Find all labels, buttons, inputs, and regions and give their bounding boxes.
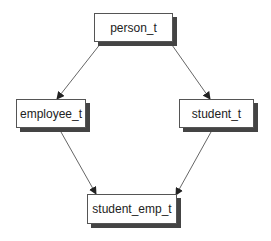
node-label: student_emp_t [92, 202, 171, 216]
node-student-emp-t: student_emp_t [87, 194, 177, 224]
edge-person-to-employee [57, 43, 101, 99]
edge-employee-to-student-emp [61, 132, 96, 194]
node-student-t: student_t [179, 99, 254, 128]
node-employee-t: employee_t [16, 99, 86, 128]
node-label: student_t [192, 107, 241, 121]
edge-student-to-student-emp [176, 132, 211, 195]
node-person-t: person_t [94, 13, 173, 42]
diagram-canvas: person_t employee_t student_t student_em… [0, 0, 271, 241]
edge-person-to-student [172, 45, 210, 99]
node-label: person_t [110, 21, 157, 35]
node-label: employee_t [20, 107, 82, 121]
